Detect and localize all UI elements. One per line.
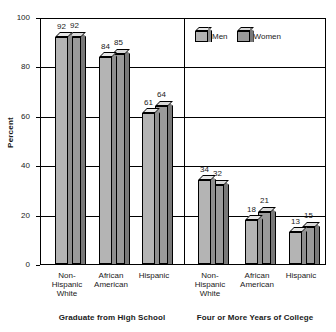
bar-value-men-hs-0: 92 — [57, 23, 66, 31]
x-category-label-college-2: Hispanic — [273, 271, 329, 280]
bar-men-hs-2: 61 — [142, 113, 155, 264]
legend-entry-men: Men — [195, 31, 228, 42]
panel-title-left: Graduate from High School — [32, 313, 192, 322]
bar-value-women-hs-0: 92 — [70, 22, 79, 30]
y-tick-label-0: 0 — [4, 261, 30, 269]
bar-value-women-college-0: 32 — [213, 170, 222, 178]
y-tick-label-100: 100 — [4, 14, 30, 22]
bar-men-college-1: 18 — [245, 220, 258, 264]
y-axis: 020406080100 — [0, 0, 40, 332]
y-tick-mark-0 — [36, 265, 40, 266]
bar-men-college-2: 13 — [289, 232, 302, 264]
panel-title-right: Four or More Years of College — [175, 313, 335, 322]
bar-value-women-hs-1: 85 — [114, 39, 123, 47]
bar-value-men-college-2: 13 — [291, 218, 300, 226]
bar-value-men-hs-1: 84 — [101, 43, 110, 51]
panel-divider — [184, 19, 185, 264]
bar-value-men-college-1: 18 — [247, 206, 256, 214]
legend-label-women: Women — [254, 32, 281, 41]
bar-value-men-hs-2: 61 — [144, 99, 153, 107]
bar-men-college-0: 34 — [198, 180, 211, 264]
bar-value-women-college-1: 21 — [260, 197, 269, 205]
bar-value-women-college-2: 15 — [304, 212, 313, 220]
bar-men-hs-0: 92 — [55, 37, 68, 264]
bar-men-hs-1: 84 — [99, 57, 112, 264]
y-tick-label-80: 80 — [4, 63, 30, 71]
bar-value-men-college-0: 34 — [200, 166, 209, 174]
y-tick-label-20: 20 — [4, 212, 30, 220]
bar-value-women-hs-2: 64 — [157, 91, 166, 99]
legend-entry-women: Women — [237, 31, 281, 42]
women-swatch-icon — [237, 31, 250, 42]
x-category-label-hs-2: Hispanic — [126, 271, 182, 280]
legend-label-men: Men — [212, 32, 228, 41]
y-tick-label-40: 40 — [4, 162, 30, 170]
legend: Men Women — [195, 31, 281, 42]
y-tick-label-60: 60 — [4, 113, 30, 121]
men-swatch-icon — [195, 31, 208, 42]
bar-chart: Percent 020406080100 9292848561643432182… — [0, 0, 336, 332]
plot-area: 929284856164343218211315 — [40, 18, 326, 265]
